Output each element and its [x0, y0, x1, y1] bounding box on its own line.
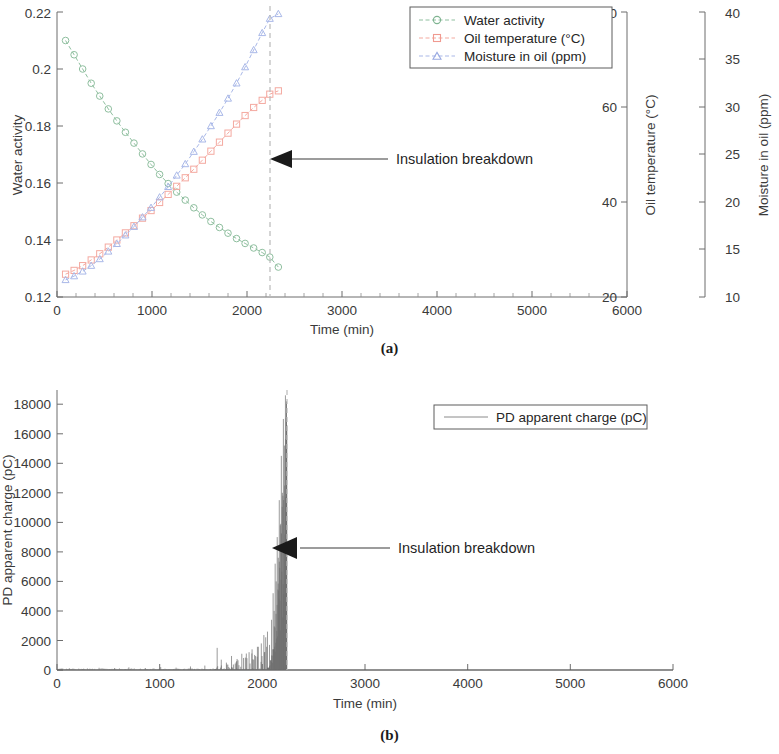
legend-label: PD apparent charge (pC) [496, 410, 647, 425]
x-tick-label: 1000 [137, 303, 167, 318]
y-tick-label: 4000 [21, 604, 51, 619]
y-right2-tick-label: 40 [725, 6, 740, 21]
y-right2-tick-label: 15 [725, 242, 740, 257]
x-tick-label: 2000 [232, 303, 262, 318]
panel-a-x-axis-title: Time (min) [310, 322, 374, 337]
data-point-marker [182, 197, 189, 204]
y-tick-label: 8000 [21, 545, 51, 560]
panel-b-y-ticks [57, 404, 63, 670]
panel-a-annotation: Insulation breakdown [270, 150, 533, 168]
y-tick-label: 6000 [21, 574, 51, 589]
panel-a: 0 1000 2000 3000 4000 5000 6000 Time (mi… [0, 0, 779, 380]
y-right2-tick-label: 25 [725, 147, 740, 162]
x-tick-label: 0 [53, 303, 61, 318]
x-tick-label: 2000 [247, 676, 277, 691]
x-tick-label: 6000 [612, 303, 642, 318]
panel-b-y-axis-title: PD apparent charge (pC) [0, 455, 15, 606]
annotation-label-a: Insulation breakdown [396, 151, 533, 167]
panel-b-x-tick-labels: 0 1000 2000 3000 4000 5000 6000 [53, 676, 688, 691]
panel-a-y-right1-ticks [621, 12, 627, 297]
data-point-marker [182, 160, 189, 166]
annotation-label-b: Insulation breakdown [398, 540, 535, 556]
y-tick-label: 10000 [13, 515, 51, 530]
y-right2-tick-label: 20 [725, 195, 740, 210]
y-tick-label: 0 [43, 663, 51, 678]
panel-b-series-group [57, 395, 673, 670]
panel-b-annotation: Insulation breakdown [272, 537, 535, 559]
panel-a-chart: 0 1000 2000 3000 4000 5000 6000 Time (mi… [0, 0, 779, 340]
x-tick-label: 4000 [422, 303, 452, 318]
x-tick-label: 3000 [327, 303, 357, 318]
x-tick-label: 3000 [350, 676, 380, 691]
series-line-circle [66, 41, 279, 268]
x-tick-label: 1000 [145, 676, 175, 691]
panel-b-x-ticks [57, 664, 673, 670]
data-point-marker [131, 140, 138, 147]
y-right2-tick-label: 10 [725, 290, 740, 305]
y-left-tick-label: 0.12 [25, 290, 51, 305]
y-right1-tick-label: 40 [602, 195, 617, 210]
y-right1-tick-label: 20 [602, 290, 617, 305]
y-left-tick-label: 0.16 [25, 176, 51, 191]
y-tick-label: 18000 [13, 397, 51, 412]
panel-a-y-left-axis-title: Water activity [10, 114, 25, 195]
data-point-marker [208, 218, 215, 225]
panel-a-series-group [62, 10, 282, 282]
y-left-tick-label: 0.18 [25, 119, 51, 134]
data-point-marker [233, 80, 240, 86]
panel-a-y-right2-ticks [699, 12, 705, 297]
y-tick-label: 2000 [21, 634, 51, 649]
figure-container: 0 1000 2000 3000 4000 5000 6000 Time (mi… [0, 0, 779, 754]
panel-b-caption: (b) [0, 727, 779, 744]
y-right2-tick-label: 30 [725, 100, 740, 115]
panel-a-y-left-tick-labels: 0.12 0.14 0.16 0.18 0.2 0.22 [25, 6, 52, 305]
y-left-tick-label: 0.14 [25, 233, 52, 248]
panel-a-y-right2-axis-title: Moisture in oil (ppm) [756, 94, 771, 216]
data-point-marker [250, 245, 257, 252]
panel-b: 0 2000 4000 6000 8000 10000 12000 14000 … [0, 380, 779, 754]
panel-b-chart: 0 2000 4000 6000 8000 10000 12000 14000 … [0, 380, 779, 725]
x-tick-label: 0 [53, 676, 61, 691]
legend-label: Oil temperature (°C) [464, 31, 585, 46]
data-point-marker [275, 264, 282, 271]
legend-label: Water activity [464, 13, 545, 28]
y-right2-tick-label: 35 [725, 52, 740, 67]
panel-a-y-right1-axis-title: Oil temperature (°C) [643, 95, 658, 216]
data-point-marker [114, 118, 121, 125]
panel-b-y-tick-labels: 0 2000 4000 6000 8000 10000 12000 14000 … [13, 397, 51, 678]
panel-a-x-tick-labels: 0 1000 2000 3000 4000 5000 6000 [53, 303, 642, 318]
y-left-tick-label: 0.22 [25, 6, 51, 21]
panel-a-legend: Water activity Oil temperature (°C) Mois… [410, 7, 612, 68]
data-point-marker [88, 80, 95, 87]
panel-a-x-ticks [57, 291, 627, 297]
y-left-tick-label: 0.2 [32, 62, 51, 77]
x-tick-label: 5000 [517, 303, 547, 318]
panel-b-x-axis-title: Time (min) [333, 696, 397, 711]
panel-a-y-left-ticks [57, 12, 63, 297]
data-point-marker [275, 10, 282, 16]
panel-a-y-right2-tick-labels: 10 15 20 25 30 35 40 [725, 6, 740, 305]
panel-a-caption: (a) [0, 340, 779, 357]
y-right1-tick-label: 60 [602, 100, 617, 115]
panel-b-legend: PD apparent charge (pC) [434, 405, 647, 429]
data-point-marker [233, 235, 240, 242]
x-tick-label: 4000 [453, 676, 483, 691]
y-tick-label: 12000 [13, 486, 51, 501]
panel-b-axes [57, 390, 673, 670]
x-tick-label: 6000 [658, 676, 688, 691]
y-tick-label: 14000 [13, 456, 51, 471]
x-tick-label: 5000 [555, 676, 585, 691]
y-tick-label: 16000 [13, 427, 51, 442]
data-point-marker [122, 129, 129, 136]
legend-label: Moisture in oil (ppm) [464, 49, 586, 64]
